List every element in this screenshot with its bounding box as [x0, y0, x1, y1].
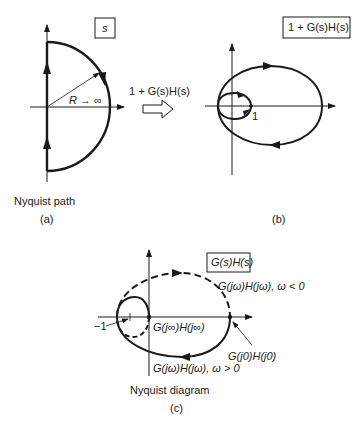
c-infinity-label: G(j∞)H(j∞)	[153, 321, 205, 333]
b-right-arrow-icon	[263, 62, 274, 70]
nyquist-figure: R → ∞ s Nyquist path (a) 1 + G(s)H(s) 1 …	[0, 0, 363, 426]
a-tag: (a)	[40, 213, 53, 225]
c-zero-label: G(j0)H(j0)	[228, 350, 277, 362]
c-plane-label: G(s)H(s)	[211, 256, 253, 268]
panel-c-nyquist-diagram: −1 G(j∞)H(j∞) G(jω)H(jω), ω < 0 G(j0)H(j…	[94, 250, 305, 414]
c-caption: Nyquist diagram	[130, 384, 209, 396]
a-arc-arrow-icon	[98, 72, 106, 86]
c-upper-arrow-icon	[172, 269, 183, 277]
a-plane-label: s	[102, 22, 108, 34]
b-point-label: 1	[252, 110, 258, 122]
mapping-transform: 1 + G(s)H(s)	[129, 85, 190, 118]
a-up-arrow-icon	[43, 136, 51, 149]
b-plane-label: 1 + G(s)H(s)	[288, 21, 349, 33]
c-point-zero	[228, 315, 232, 319]
b-left-arrow-icon	[269, 141, 280, 149]
c-lower-arrow-icon	[179, 353, 190, 361]
mapping-label: 1 + G(s)H(s)	[129, 85, 190, 97]
a-radius-label: R → ∞	[69, 94, 102, 106]
c-zero-leader	[233, 322, 252, 345]
panel-b-1-plus-gh-plane: 1 1 + G(s)H(s) (b)	[205, 17, 350, 225]
c-point-infinity	[147, 315, 151, 319]
c-positive-frequency-label: G(jω)H(jω), ω > 0	[153, 362, 240, 374]
a-up-arrow-icon	[43, 61, 51, 74]
c-negative-frequency-label: G(jω)H(jω), ω < 0	[218, 280, 305, 292]
panel-a-nyquist-path: R → ∞ s Nyquist path (a)	[14, 18, 124, 225]
hollow-right-arrow-icon	[143, 100, 173, 118]
c-tag: (c)	[170, 402, 183, 414]
a-caption: Nyquist path	[14, 195, 75, 207]
b-tag: (b)	[272, 213, 285, 225]
b-point-one	[249, 104, 253, 108]
c-minus-one-label: −1	[94, 320, 107, 332]
c-negative-frequency-curve	[117, 273, 230, 317]
